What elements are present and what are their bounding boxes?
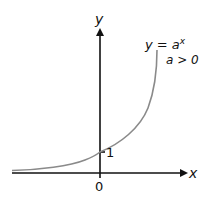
exponential-curve <box>12 50 157 171</box>
function-base: y = a <box>144 37 180 52</box>
y-intercept-label: 1 <box>106 145 114 160</box>
function-label: y = ax <box>144 36 186 52</box>
x-axis-label: x <box>188 165 198 181</box>
y-axis-label: y <box>94 11 104 27</box>
function-exponent: x <box>179 36 186 46</box>
origin-label: 0 <box>95 179 103 194</box>
condition-label: a > 0 <box>166 53 199 67</box>
exponential-graph: y x 0 1 y = ax a > 0 <box>0 0 206 201</box>
